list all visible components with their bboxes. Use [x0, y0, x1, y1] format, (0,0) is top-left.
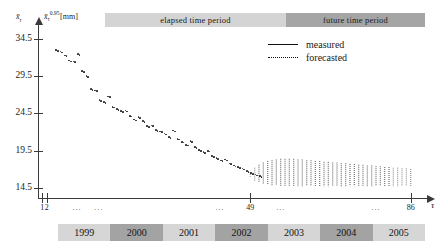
measured-data-point — [200, 150, 202, 152]
measured-data-point — [96, 90, 98, 92]
measured-data-point — [161, 131, 163, 133]
y-tick-label: 19.5 — [2, 145, 32, 155]
year-label-cell: 1999 — [58, 224, 110, 241]
x-axis-ellipsis: ... — [94, 203, 103, 212]
y-axis-label-sub: τ — [48, 16, 50, 22]
y-axis-label-sup: 0.95 — [50, 10, 60, 16]
year-label-cell: 2004 — [320, 224, 372, 241]
year-label-cell: 2002 — [215, 224, 267, 241]
measured-data-point — [87, 76, 89, 78]
y-tick-label: 34.5 — [2, 33, 32, 43]
measured-data-point — [135, 120, 137, 122]
measured-data-point — [204, 152, 206, 154]
measured-data-point — [57, 50, 59, 52]
x-axis-ellipsis: ... — [276, 203, 285, 212]
x-axis-ellipsis: ... — [216, 203, 225, 212]
measured-data-point — [109, 96, 111, 98]
y-axis-symbol-left: x̄τ — [16, 12, 22, 23]
measured-data-point — [100, 100, 102, 102]
y-axis-label: x̄τ0.95 [mm] — [44, 10, 78, 22]
year-label-cell: 2000 — [110, 224, 162, 241]
x-axis-ellipsis: ... — [372, 203, 381, 212]
measured-data-point — [239, 167, 241, 169]
measured-data-point — [191, 141, 193, 143]
measured-data-point — [122, 111, 124, 113]
measured-data-point — [126, 111, 128, 113]
measured-data-point — [139, 117, 141, 119]
measured-data-point — [83, 71, 85, 73]
year-label-cell: 2001 — [163, 224, 215, 241]
measured-data-point — [252, 173, 254, 175]
x-tick-label: 49 — [246, 203, 254, 212]
year-label-cell: 2005 — [373, 224, 425, 241]
measured-data-point — [213, 156, 215, 158]
y-axis-symbol-left-sub: τ — [20, 17, 22, 23]
x-tick-label: 2 — [45, 203, 49, 212]
x-axis-label: τ — [431, 200, 434, 210]
forecast-chart-figure: elapsed time period future time period x… — [0, 0, 445, 252]
x-tick-label: 1 — [40, 203, 44, 212]
measured-data-point — [148, 126, 150, 128]
y-tick-label: 14.5 — [2, 182, 32, 192]
year-label-cell: 2003 — [268, 224, 320, 241]
y-tick-label: 29.5 — [2, 70, 32, 80]
year-axis-bar: 1999200020012002200320042005 — [58, 224, 425, 241]
forecast-band — [38, 24, 428, 199]
plot-area — [38, 24, 428, 199]
x-tick-label: 86 — [407, 203, 415, 212]
x-axis-ellipsis: ... — [73, 203, 82, 212]
measured-data-point — [217, 158, 219, 160]
y-tick-label: 24.5 — [2, 107, 32, 117]
y-axis-unit: [mm] — [60, 12, 78, 21]
